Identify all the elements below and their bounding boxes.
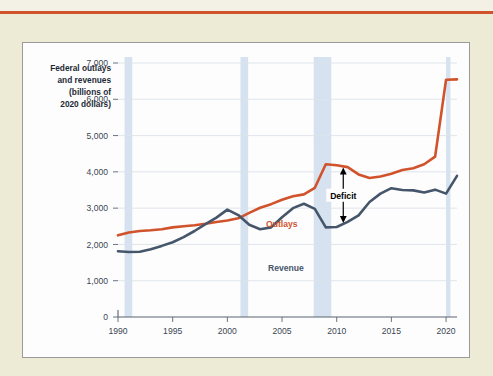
x-tick-label-2000: 2000 [218,326,237,336]
x-axis-tick-labels: 1990199520002005201020152020 [108,326,455,336]
series-line-revenue [118,176,457,252]
y-axis-title-line-2: and revenues [58,75,112,85]
recession-bands-group [125,57,451,317]
chart-panel: Federal outlays and revenues (billions o… [22,42,470,358]
y-tick-label-3000: 3,000 [86,203,108,213]
y-axis-tick-marks [113,63,118,317]
series-inline-labels: OutlaysRevenue [266,219,304,273]
y-axis-tick-labels: 01,0002,0003,0004,0005,0006,0007,000 [86,58,108,322]
y-tick-label-5000: 5,000 [86,131,108,141]
x-tick-label-1990: 1990 [108,326,127,336]
x-tick-label-2020: 2020 [437,326,456,336]
gridlines-group [118,63,457,281]
x-tick-label-2005: 2005 [272,326,291,336]
y-tick-label-1000: 1,000 [86,276,108,286]
x-axis-tick-marks [118,317,446,322]
axis-lines-group [118,310,457,317]
chart-plot-area: Federal outlays and revenues (billions o… [23,43,469,357]
x-tick-label-1995: 1995 [163,326,182,336]
chart-annotations: Deficit [326,168,360,224]
series-label-revenue: Revenue [268,263,304,273]
line-chart: Federal outlays and revenues (billions o… [23,43,469,357]
y-tick-label-7000: 7,000 [86,58,108,68]
recession-band-2 [240,57,248,317]
recession-band-1 [125,57,133,317]
x-tick-label-2015: 2015 [382,326,401,336]
y-tick-label-0: 0 [103,312,108,322]
page-top-strip [0,0,493,11]
series-label-outlays: Outlays [266,219,298,229]
y-tick-label-4000: 4,000 [86,167,108,177]
top-rule-divider [0,11,493,14]
y-tick-label-2000: 2,000 [86,240,108,250]
y-tick-label-6000: 6,000 [86,94,108,104]
deficit-arrowhead-up [340,168,347,175]
deficit-annotation-label: Deficit [330,191,356,201]
x-tick-label-2010: 2010 [327,326,346,336]
